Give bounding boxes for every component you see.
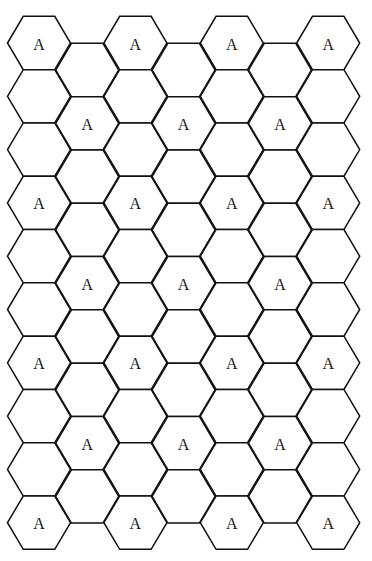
- hex-label: A: [274, 276, 286, 293]
- hex-label: A: [130, 195, 142, 212]
- hex-label: A: [81, 276, 93, 293]
- hex-label: A: [178, 436, 190, 453]
- hex-label: A: [33, 515, 45, 532]
- hex-label: A: [33, 195, 45, 212]
- hex-label: A: [226, 355, 238, 372]
- hex-label: A: [130, 355, 142, 372]
- hex-label: A: [322, 36, 334, 53]
- hex-label: A: [274, 116, 286, 133]
- hex-label: A: [178, 116, 190, 133]
- hex-label: A: [322, 355, 334, 372]
- hex-label: A: [130, 36, 142, 53]
- hex-grid: AAAAAAAAAAAAAAAAAAAAAAAAA: [0, 0, 372, 561]
- hex-label: A: [33, 355, 45, 372]
- hex-label: A: [322, 515, 334, 532]
- hex-label: A: [130, 515, 142, 532]
- hex-label: A: [226, 195, 238, 212]
- hex-label: A: [81, 436, 93, 453]
- hex-label: A: [178, 276, 190, 293]
- hex-label: A: [322, 195, 334, 212]
- hex-label: A: [274, 436, 286, 453]
- hex-label: A: [81, 116, 93, 133]
- hex-label: A: [33, 36, 45, 53]
- hex-label: A: [226, 36, 238, 53]
- hex-label: A: [226, 515, 238, 532]
